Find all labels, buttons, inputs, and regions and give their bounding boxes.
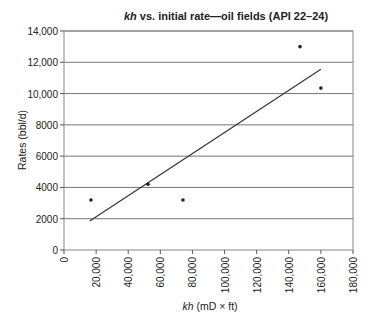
data-point xyxy=(89,198,93,202)
x-tick-label: 60,000 xyxy=(155,257,166,288)
y-tick-label: 10,000 xyxy=(27,89,58,100)
data-point xyxy=(181,198,185,202)
trendline xyxy=(90,69,321,221)
y-tick-label: 4000 xyxy=(36,182,59,193)
y-tick-label: 12,000 xyxy=(27,57,58,68)
y-tick-label: 0 xyxy=(52,245,58,256)
y-tick-label: 6000 xyxy=(36,151,59,162)
x-tick-label: 180,000 xyxy=(348,257,359,294)
x-tick-label: 80,000 xyxy=(187,257,198,288)
x-tick-label: 140,000 xyxy=(284,257,295,294)
x-tick-label: 0 xyxy=(59,257,70,263)
data-point xyxy=(146,183,150,187)
x-tick-label: 20,000 xyxy=(91,257,102,288)
x-tick-label: 100,000 xyxy=(220,257,231,294)
gridlines xyxy=(64,31,353,219)
x-axis: 020,00040,00060,00080,000100,000120,0001… xyxy=(59,250,359,293)
x-tick-label: 160,000 xyxy=(316,257,327,294)
x-axis-label: kh (mD × ft) xyxy=(182,300,237,312)
chart-title: kh vs. initial rate—oil fields (API 22–2… xyxy=(124,10,329,22)
scatter-chart: kh vs. initial rate—oil fields (API 22–2… xyxy=(0,0,380,321)
y-tick-label: 8000 xyxy=(36,120,59,131)
x-tick-label: 40,000 xyxy=(123,257,134,288)
data-point xyxy=(319,86,323,90)
data-points xyxy=(89,45,323,202)
y-axis-label: Rates (bbl/d) xyxy=(16,110,28,170)
plot-area-border xyxy=(64,31,353,250)
y-tick-label: 2000 xyxy=(36,214,59,225)
x-tick-label: 120,000 xyxy=(252,257,263,294)
data-point xyxy=(298,45,302,49)
y-tick-label: 14,000 xyxy=(27,26,58,37)
y-axis: 0200040006000800010,00012,00014,000 xyxy=(27,26,64,256)
